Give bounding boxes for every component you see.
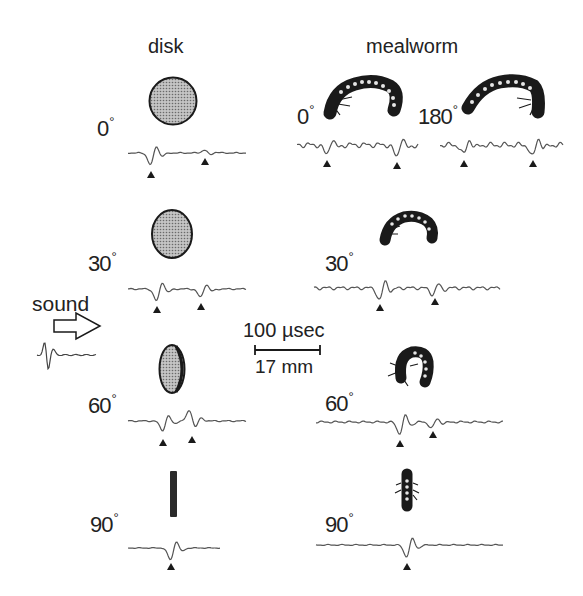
echo-marker-mealworm-30-1 — [376, 304, 384, 311]
disk-shape-30 — [152, 210, 192, 258]
echo-marker-mealworm-60-2 — [429, 431, 437, 438]
mealworm-shape-180 — [468, 80, 539, 115]
waveform-disk-30 — [128, 283, 246, 300]
echo-marker-disk-0-1 — [147, 171, 155, 178]
echo-marker-disk-90-1 — [167, 563, 175, 570]
waveform-mealworm-60 — [316, 415, 503, 434]
echo-marker-mealworm-0-1 — [323, 160, 331, 167]
waveform-disk-60 — [128, 411, 246, 431]
echo-marker-disk-0-2 — [201, 158, 209, 165]
waveform-mealworm-90 — [316, 538, 503, 556]
echo-marker-mealworm-60-1 — [396, 440, 404, 447]
waveform-mealworm-30 — [314, 281, 500, 299]
echo-marker-mealworm-0-2 — [393, 162, 401, 169]
sound-arrow-icon — [54, 313, 100, 339]
mealworm-shape-90 — [395, 474, 419, 506]
waveform-mealworm-180 — [440, 139, 563, 153]
echo-marker-disk-30-2 — [197, 303, 205, 310]
figure-canvas — [0, 0, 583, 596]
disk-shape-0 — [150, 78, 197, 125]
reference-waveform — [37, 343, 96, 369]
echo-marker-disk-60-2 — [188, 436, 196, 443]
echo-marker-mealworm-180-2 — [529, 160, 537, 167]
disk-shape-60 — [160, 345, 185, 393]
echo-marker-disk-60-1 — [159, 439, 167, 446]
echo-marker-disk-30-1 — [153, 306, 161, 313]
echo-marker-mealworm-90-1 — [403, 563, 411, 570]
echo-marker-mealworm-180-1 — [460, 160, 468, 167]
waveform-mealworm-0 — [297, 140, 418, 156]
waveform-disk-90 — [128, 542, 220, 559]
scale-bar — [255, 345, 320, 355]
mealworm-shape-60 — [388, 351, 428, 386]
echo-marker-mealworm-30-2 — [431, 298, 439, 305]
mealworm-shape-30 — [385, 214, 433, 240]
waveform-disk-0 — [128, 147, 246, 164]
disk-shape-90 — [170, 471, 177, 517]
mealworm-shape-0 — [330, 80, 396, 115]
